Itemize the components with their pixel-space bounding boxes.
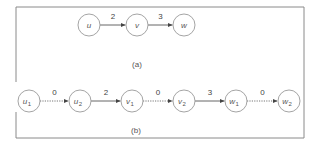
edge-weight-label: 3 <box>158 12 163 21</box>
node-v2: v2 <box>173 90 195 112</box>
node-w2: w2 <box>278 90 300 112</box>
edge-weight-label: 0 <box>156 88 161 97</box>
node-w: w <box>173 14 195 36</box>
node-u1: u1 <box>18 90 40 112</box>
diagram-canvas: 23uvw (a) 02030u1u2v1v2w1w2 (b) <box>0 0 319 151</box>
node-u2: u2 <box>69 90 91 112</box>
figure-frame <box>16 7 304 138</box>
node-label: u <box>87 21 92 30</box>
edge-weight-label: 0 <box>260 88 265 97</box>
node-v: v <box>126 14 148 36</box>
edge-weight-label: 3 <box>208 88 213 97</box>
panel-b: 02030u1u2v1v2w1w2 <box>18 88 300 112</box>
edge-weight-label: 0 <box>52 88 57 97</box>
edge-weight-label: 2 <box>111 12 116 21</box>
caption-b: (b) <box>131 126 141 135</box>
caption-a: (a) <box>132 60 142 69</box>
node-u: u <box>78 14 100 36</box>
node-w1: w1 <box>225 90 247 112</box>
panel-a: 23uvw <box>78 12 195 36</box>
node-v1: v1 <box>121 90 143 112</box>
edge-weight-label: 2 <box>104 88 109 97</box>
